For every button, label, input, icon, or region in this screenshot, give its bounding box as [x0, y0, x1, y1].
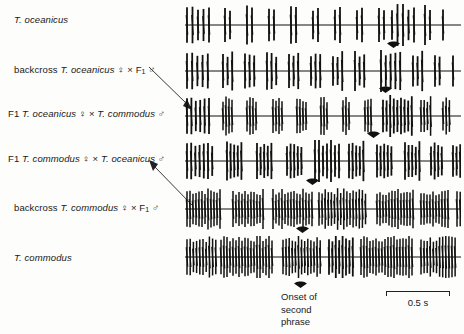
row-label-prefix: F1	[8, 108, 22, 119]
trace-f1-commodus-x-oceanicus	[185, 140, 461, 182]
row-label-species: T. oceanicus	[60, 64, 114, 75]
row-label-cross-symbols: ♀ ×	[76, 108, 97, 119]
row-label-species-male: T. commodus	[97, 108, 155, 119]
row-label-t-oceanicus: T. oceanicus	[14, 14, 68, 25]
row-label-t-commodus: T. commodus	[14, 252, 72, 263]
row-label-prefix: F1	[8, 153, 22, 164]
onset-caption-line1: Onset of	[281, 291, 317, 304]
scale-bar-left-tick	[386, 291, 387, 296]
row-label-f1-oceanicus-x-commodus: F1 T. oceanicus ♀ × T. commodus ♂	[8, 108, 165, 119]
onset-caption: Onset of second phrase	[281, 291, 317, 329]
row-label-cross-symbols: ♀ ×	[80, 153, 101, 164]
row-label-backcross-oceanicus: backcross T. oceanicus ♀ × F1 ♂	[14, 64, 156, 75]
trace-t-commodus	[185, 236, 461, 278]
onset-arrow-row-3	[367, 131, 380, 138]
scale-bar-right-tick	[449, 291, 450, 296]
trace-backcross-oceanicus	[185, 50, 461, 92]
onset-caption-line3: phrase	[281, 316, 317, 329]
onset-arrow-row-4	[306, 178, 319, 185]
row-label-cross-symbols: ♀ × F	[118, 202, 145, 213]
oscillogram-figure: T. oceanicus backcross T. oceanicus ♀ × …	[0, 0, 464, 334]
row-label-backcross-commodus: backcross T. commodus ♀ × F1 ♂	[14, 202, 159, 213]
trace-f1-oceanicus-x-commodus	[185, 95, 461, 137]
scale-bar-label: 0.5 s	[378, 297, 458, 308]
row-label-f1-commodus-x-oceanicus: F1 T. commodus ♀ × T. oceanicus ♂	[8, 153, 165, 164]
onset-arrow-row-6	[294, 281, 307, 288]
onset-arrow-row-2	[379, 86, 392, 93]
onset-caption-line2: second	[281, 304, 317, 317]
row-label-species-male: T. oceanicus	[101, 153, 155, 164]
row-label-prefix: backcross	[14, 64, 60, 75]
row-label-text: T. commodus	[14, 252, 72, 263]
row-label-cross-symbols: ♀ × F	[115, 64, 142, 75]
row-label-species-female: T. oceanicus	[22, 108, 76, 119]
onset-arrow-row-5	[296, 226, 309, 233]
row-label-male-symbol: ♂	[149, 202, 159, 213]
scale-bar-horizontal-line	[386, 291, 450, 292]
trace-t-oceanicus	[185, 4, 461, 46]
trace-backcross-commodus	[185, 188, 461, 230]
row-label-prefix: backcross	[14, 202, 60, 213]
row-label-male-symbol: ♂	[155, 153, 165, 164]
onset-arrow-row-1	[387, 41, 400, 48]
row-label-male-symbol: ♂	[146, 64, 156, 75]
row-label-text: T. oceanicus	[14, 14, 68, 25]
row-label-male-symbol: ♂	[155, 108, 165, 119]
row-label-species-female: T. commodus	[22, 153, 80, 164]
row-label-species: T. commodus	[60, 202, 118, 213]
